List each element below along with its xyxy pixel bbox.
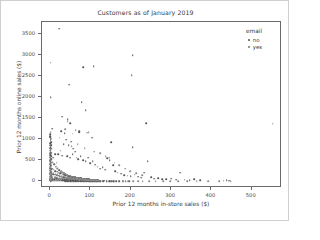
scatter-point — [77, 143, 79, 145]
scatter-point — [124, 168, 126, 170]
scatter-point — [219, 180, 221, 182]
scatter-point — [58, 28, 60, 30]
y-axis-tick-label: 0 — [32, 177, 35, 183]
scatter-point — [130, 176, 132, 178]
y-axis-tick-mark — [38, 159, 41, 160]
scatter-point — [63, 143, 65, 145]
x-axis-tick-mark — [49, 187, 50, 190]
scatter-point — [83, 179, 85, 181]
scatter-point — [65, 139, 67, 141]
scatter-point — [64, 178, 66, 180]
scatter-point — [59, 137, 61, 139]
scatter-point — [162, 180, 164, 182]
scatter-point — [69, 178, 71, 180]
x-axis-tick-mark — [89, 187, 90, 190]
x-axis-label: Prior 12 months in-store sales ($) — [41, 201, 281, 207]
scatter-point — [157, 177, 159, 179]
y-axis-tick-mark — [38, 117, 41, 118]
scatter-point — [52, 161, 54, 163]
scatter-point — [59, 177, 61, 179]
scatter-point — [72, 153, 74, 155]
scatter-point — [223, 180, 225, 182]
y-axis-tick-mark — [38, 75, 41, 76]
scatter-point — [78, 179, 80, 181]
y-axis-tick-label: 1500 — [22, 114, 35, 120]
legend-item-label: yes — [253, 44, 262, 50]
scatter-point — [106, 180, 108, 182]
scatter-point — [97, 166, 99, 168]
scatter-point — [69, 157, 71, 159]
scatter-point — [60, 150, 62, 152]
scatter-point — [165, 179, 167, 181]
x-axis-tick-label: 200 — [125, 192, 135, 198]
legend-title: email — [246, 28, 262, 34]
scatter-point — [170, 178, 172, 180]
scatter-point — [87, 157, 89, 159]
scatter-point — [125, 180, 127, 182]
scatter-point — [92, 161, 94, 163]
scatter-point — [61, 177, 63, 179]
scatter-point — [112, 164, 114, 166]
scatter-point — [189, 179, 191, 181]
scatter-point — [72, 133, 74, 135]
x-axis-tick-label: 100 — [84, 192, 94, 198]
scatter-point — [194, 179, 196, 181]
scatter-point — [50, 148, 52, 150]
scatter-point — [85, 161, 87, 163]
scatter-point — [132, 147, 134, 149]
scatter-point — [50, 132, 52, 134]
scatter-point — [90, 162, 92, 164]
scatter-point — [105, 155, 107, 157]
legend-item[interactable]: yes — [246, 44, 262, 51]
x-axis-tick-label: 300 — [165, 192, 175, 198]
scatter-point — [50, 138, 52, 140]
scatter-point — [66, 156, 68, 158]
scatter-point — [109, 159, 111, 161]
scatter-point — [94, 164, 96, 166]
scatter-point — [88, 131, 90, 133]
scatter-point — [69, 122, 71, 124]
scatter-point — [111, 141, 113, 143]
scatter-point — [136, 173, 138, 175]
y-axis-tick-label: 1000 — [22, 135, 35, 141]
scatter-point — [110, 180, 112, 182]
scatter-point — [76, 179, 78, 181]
y-axis-tick-label: 2500 — [22, 72, 35, 78]
scatter-point — [102, 180, 104, 182]
scatter-point — [118, 180, 120, 182]
scatter-point — [75, 130, 77, 132]
scatter-point — [226, 180, 228, 182]
scatter-point — [61, 155, 63, 157]
scatter-point — [155, 180, 157, 182]
x-axis-tick-label: 400 — [205, 192, 215, 198]
scatter-point — [86, 179, 88, 181]
scatter-point — [108, 157, 110, 159]
y-axis-tick-label: 500 — [25, 156, 35, 162]
scatter-point — [95, 180, 97, 182]
scatter-point — [114, 180, 116, 182]
legend-item[interactable]: no — [246, 37, 262, 44]
scatter-point — [61, 116, 63, 118]
scatter-point — [120, 173, 122, 175]
scatter-point — [85, 110, 87, 112]
scatter-point — [114, 162, 116, 164]
scatter-point — [128, 180, 130, 182]
y-axis-tick-label: 2000 — [22, 93, 35, 99]
scatter-point — [123, 180, 125, 182]
x-axis-tick-mark — [130, 187, 131, 190]
x-axis-tick-mark — [251, 187, 252, 190]
scatter-point — [57, 177, 59, 179]
scatter-point — [68, 144, 70, 146]
scatter-point — [230, 180, 232, 182]
scatter-point — [50, 62, 52, 64]
scatter-point — [50, 144, 52, 146]
scatter-point — [54, 176, 56, 178]
scatter-point — [119, 164, 121, 166]
y-axis-tick-mark — [38, 96, 41, 97]
x-axis-tick-mark — [210, 187, 211, 190]
scatter-point — [82, 66, 84, 68]
scatter-point — [148, 180, 150, 182]
scatter-point — [90, 180, 92, 182]
scatter-point — [145, 122, 147, 124]
legend-entries: noyes — [246, 37, 262, 51]
